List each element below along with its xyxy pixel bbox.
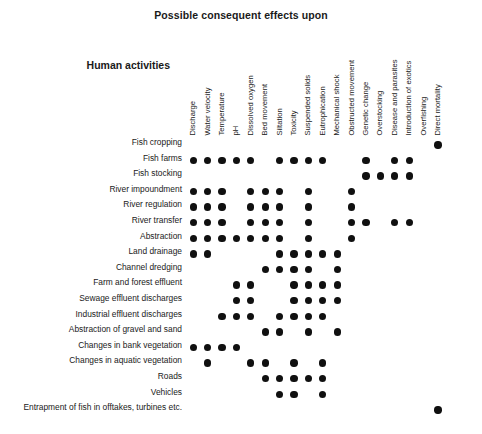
- matrix-dot: [247, 203, 254, 210]
- matrix-dot: [290, 281, 297, 288]
- matrix-cell: [344, 184, 358, 200]
- matrix-dot: [276, 391, 283, 398]
- matrix-cell: [344, 324, 358, 340]
- matrix-cell: [388, 293, 402, 309]
- matrix-dot: [305, 297, 312, 304]
- matrix-dot: [290, 313, 297, 320]
- matrix-dot: [290, 157, 297, 164]
- matrix-cell: [229, 402, 243, 418]
- matrix-cell: [388, 199, 402, 215]
- matrix-row: Entrapment of fish in offtakes, turbines…: [0, 402, 482, 418]
- matrix-cell: [229, 231, 243, 247]
- matrix-cell: [229, 153, 243, 169]
- matrix-dot: [290, 391, 297, 398]
- matrix-dot: [334, 250, 341, 257]
- matrix-cell: [402, 293, 416, 309]
- matrix-cell: [416, 309, 430, 325]
- matrix-row: Fish cropping: [0, 137, 482, 153]
- matrix-row: Fish stocking: [0, 168, 482, 184]
- matrix-cell: [402, 402, 416, 418]
- matrix-cell: [186, 355, 200, 371]
- column-header: Suspended solids: [301, 48, 315, 136]
- matrix-cell: [287, 246, 301, 262]
- matrix-cell: [431, 215, 445, 231]
- matrix-cell: [431, 371, 445, 387]
- matrix-cell: [244, 371, 258, 387]
- matrix-cell: [402, 340, 416, 356]
- matrix-cell: [287, 215, 301, 231]
- matrix-dot: [305, 375, 312, 382]
- column-header-label: Overstocking: [376, 91, 384, 136]
- matrix-dot: [190, 157, 197, 164]
- matrix-cell: [402, 137, 416, 153]
- matrix-cell: [186, 231, 200, 247]
- matrix-cell: [258, 309, 272, 325]
- column-header: Genetic change: [359, 48, 373, 136]
- row-cells: [186, 324, 454, 340]
- matrix-chart: Possible consequent effects upon Human a…: [0, 0, 482, 434]
- matrix-cell: [416, 355, 430, 371]
- row-cells: [186, 246, 454, 262]
- matrix-cell: [200, 355, 214, 371]
- row-label: Fish stocking: [0, 169, 182, 178]
- matrix-dot: [334, 297, 341, 304]
- matrix-cell: [316, 371, 330, 387]
- matrix-cell: [215, 262, 229, 278]
- matrix-cell: [344, 215, 358, 231]
- row-cells: [186, 340, 454, 356]
- matrix-dot: [218, 188, 225, 195]
- matrix-cell: [287, 277, 301, 293]
- matrix-cell: [330, 184, 344, 200]
- row-axis-title: Human activities: [0, 59, 170, 71]
- matrix-cell: [244, 387, 258, 403]
- matrix-cell: [229, 293, 243, 309]
- matrix-cell: [272, 199, 286, 215]
- matrix-cell: [272, 293, 286, 309]
- matrix-dot: [406, 219, 413, 226]
- row-cells: [186, 215, 454, 231]
- matrix-cell: [287, 168, 301, 184]
- row-label: Sewage effluent discharges: [0, 294, 182, 303]
- matrix-cell: [258, 340, 272, 356]
- column-header-label: Introduction of exotics: [405, 61, 413, 136]
- matrix-dot: [276, 203, 283, 210]
- matrix-cell: [186, 309, 200, 325]
- column-headers: DischargeWater velocityTemperaturepHDiss…: [186, 48, 454, 136]
- matrix-cell: [215, 309, 229, 325]
- matrix-cell: [431, 293, 445, 309]
- matrix-cell: [229, 309, 243, 325]
- matrix-cell: [402, 153, 416, 169]
- matrix-dot: [247, 281, 254, 288]
- matrix-cell: [316, 324, 330, 340]
- matrix-dot: [276, 157, 283, 164]
- matrix-cell: [244, 277, 258, 293]
- matrix-cell: [330, 199, 344, 215]
- matrix-cell: [244, 199, 258, 215]
- matrix-row: River regulation: [0, 199, 482, 215]
- row-label: River impoundment: [0, 185, 182, 194]
- matrix-cell: [200, 137, 214, 153]
- matrix-cell: [388, 215, 402, 231]
- matrix-dot: [233, 157, 240, 164]
- row-label: Roads: [0, 372, 182, 381]
- row-label: Farm and forest effluent: [0, 278, 182, 287]
- matrix-dot: [276, 188, 283, 195]
- matrix-cell: [272, 153, 286, 169]
- matrix-cell: [272, 231, 286, 247]
- matrix-cell: [416, 168, 430, 184]
- matrix-dot: [233, 235, 240, 242]
- matrix-dot: [391, 219, 398, 226]
- matrix-cell: [416, 153, 430, 169]
- row-label: Land drainage: [0, 247, 182, 256]
- matrix-cell: [388, 137, 402, 153]
- matrix-cell: [330, 246, 344, 262]
- row-label: Vehicles: [0, 388, 182, 397]
- matrix-cell: [301, 309, 315, 325]
- matrix-cell: [215, 168, 229, 184]
- matrix-cell: [258, 184, 272, 200]
- matrix-cell: [316, 246, 330, 262]
- matrix-cell: [373, 231, 387, 247]
- matrix-row: Fish farms: [0, 153, 482, 169]
- row-cells: [186, 153, 454, 169]
- matrix-cell: [215, 355, 229, 371]
